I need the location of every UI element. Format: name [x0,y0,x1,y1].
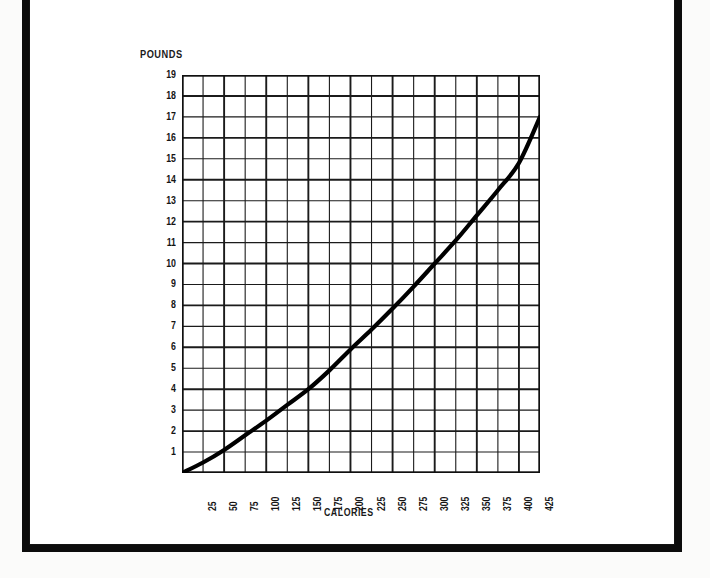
plot-area [182,75,540,473]
y-axis-tick-label: 11 [155,237,176,248]
y-axis-tick-label: 2 [155,425,176,436]
x-axis-tick-label: 275 [418,497,429,511]
y-axis-tick-label: 9 [155,278,176,289]
x-axis-title: CALORIES [324,506,374,518]
line-chart: POUNDS 12345678910111213141516171819 255… [0,0,710,578]
y-axis-tick-label: 3 [155,404,176,415]
y-axis-tick-label: 17 [155,111,176,122]
x-axis-tick-label: 125 [291,497,302,511]
chart-canvas [182,75,540,473]
x-axis-tick-label: 50 [228,501,239,511]
y-axis-tick-label: 16 [155,132,176,143]
y-axis-tick-label: 5 [155,362,176,373]
x-axis-tick-label: 300 [439,497,450,511]
y-axis-tick-label: 19 [155,69,176,80]
y-axis-tick-label: 14 [155,174,176,185]
x-axis-tick-label: 425 [544,497,555,511]
y-axis-tick-label: 13 [155,195,176,206]
y-axis-tick-labels: 12345678910111213141516171819 [148,75,176,473]
x-axis-tick-label: 75 [249,501,260,511]
y-axis-tick-label: 18 [155,90,176,101]
y-axis-tick-label: 8 [155,299,176,310]
y-axis-tick-label: 4 [155,383,176,394]
x-axis-tick-label: 400 [523,497,534,511]
x-axis-tick-label: 325 [460,497,471,511]
x-axis-tick-label: 375 [502,497,513,511]
x-axis-tick-label: 350 [481,497,492,511]
x-axis-tick-label: 100 [270,497,281,511]
page-background: POUNDS 12345678910111213141516171819 255… [0,0,710,578]
x-axis-tick-label: 25 [207,501,218,511]
x-axis-tick-label: 150 [312,497,323,511]
y-axis-tick-label: 12 [155,216,176,227]
y-axis-tick-label: 1 [155,446,176,457]
y-axis-title: POUNDS [140,48,183,60]
y-axis-tick-label: 7 [155,320,176,331]
y-axis-tick-label: 10 [155,258,176,269]
gridlines [182,75,540,473]
data-series-line [182,117,540,473]
x-axis-tick-label: 225 [376,497,387,511]
plot-border [183,76,540,473]
x-axis-tick-label: 250 [397,497,408,511]
y-axis-tick-label: 6 [155,341,176,352]
y-axis-tick-label: 15 [155,153,176,164]
